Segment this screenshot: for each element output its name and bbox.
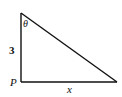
horizontal-side-label: x [66,83,72,95]
right-triangle-diagram: θ 3 P x [0,0,122,97]
vertical-side-label: 3 [9,44,15,56]
vertex-p-label: P [9,76,17,88]
triangle [21,13,117,82]
angle-theta-label: θ [23,18,28,29]
hypotenuse [21,13,117,82]
